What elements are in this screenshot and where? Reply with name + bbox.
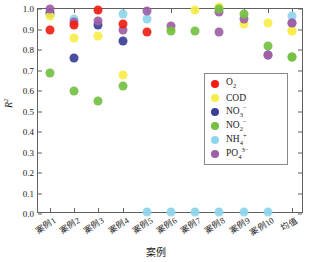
y-axis-tick-label: 0.9 xyxy=(23,25,34,34)
data-point xyxy=(46,5,55,14)
y-axis-tick-mark xyxy=(298,193,302,194)
x-axis-tick-label: 均值 xyxy=(280,216,300,233)
y-axis-tick-label: 1.0 xyxy=(23,5,34,14)
data-point xyxy=(94,6,103,15)
legend-no2[interactable]: NO2− xyxy=(211,119,283,133)
data-point xyxy=(118,36,127,45)
y-axis-tick-mark xyxy=(298,70,302,71)
data-point xyxy=(94,17,103,26)
y-axis-tick-label: 0.7 xyxy=(23,66,34,75)
y-axis-tick-mark xyxy=(38,70,42,71)
data-point xyxy=(94,97,103,106)
y-axis-tick-label: 0.4 xyxy=(23,128,34,137)
x-axis-label: 案例 xyxy=(0,244,311,259)
scatter-chart-figure: R2 0.00.10.20.30.40.50.60.70.80.91.0 O2C… xyxy=(0,0,311,262)
y-axis-tick-mark xyxy=(38,132,42,133)
x-axis-tick-mark xyxy=(171,9,172,13)
y-axis-label-text: R xyxy=(3,102,14,108)
legend-swatch-icon xyxy=(211,94,219,102)
data-point xyxy=(142,15,151,24)
data-point xyxy=(191,6,200,15)
y-axis-tick-mark xyxy=(38,91,42,92)
y-axis-tick-label: 0.6 xyxy=(23,87,34,96)
y-axis-tick-mark xyxy=(38,152,42,153)
plot-area: 0.00.10.20.30.40.50.60.70.80.91.0 O2CODN… xyxy=(37,8,303,213)
legend-o2[interactable]: O2 xyxy=(211,77,283,91)
data-point xyxy=(94,31,103,40)
y-axis-tick-label: 0.3 xyxy=(23,148,34,157)
x-axis-tick-label: 案例10 xyxy=(248,216,275,238)
chart-legend: O2CODNO3−NO2−NH4+PO43− xyxy=(204,73,288,165)
x-axis-tick-label: 案例7 xyxy=(179,216,203,235)
y-axis-tick-mark xyxy=(298,9,302,10)
legend-swatch-icon xyxy=(211,80,219,88)
legend-label: PO43− xyxy=(226,145,248,162)
legend-label: O2 xyxy=(226,77,236,91)
y-axis-tick-mark xyxy=(298,132,302,133)
data-point xyxy=(215,5,224,14)
y-axis-label-exponent: 2 xyxy=(2,98,10,102)
y-axis-tick-label: 0.2 xyxy=(23,169,34,178)
data-point xyxy=(191,26,200,35)
data-point xyxy=(70,33,79,42)
x-axis-tick-mark xyxy=(74,208,75,212)
y-axis-tick-mark xyxy=(38,9,42,10)
y-axis-tick-mark xyxy=(38,29,42,30)
data-point xyxy=(287,19,296,28)
x-axis-tick-label: 案例2 xyxy=(58,216,82,235)
y-axis-tick-mark xyxy=(298,152,302,153)
y-axis-tick-mark xyxy=(298,214,302,215)
data-point xyxy=(118,20,127,29)
x-axis-tick-label: 案例9 xyxy=(228,216,252,235)
legend-no3[interactable]: NO3− xyxy=(211,105,283,119)
data-point xyxy=(239,10,248,19)
legend-cod[interactable]: COD xyxy=(211,91,283,105)
data-point xyxy=(142,27,151,36)
x-axis-tick-label: 案例6 xyxy=(155,216,179,235)
x-axis-tick-label: 案例3 xyxy=(83,216,107,235)
y-axis-tick-mark xyxy=(38,193,42,194)
data-point xyxy=(46,25,55,34)
x-axis-tick-mark xyxy=(292,208,293,212)
legend-swatch-icon xyxy=(211,136,219,144)
y-axis-tick-mark xyxy=(298,173,302,174)
legend-swatch-icon xyxy=(211,122,219,130)
data-point xyxy=(287,53,296,62)
x-axis-tick-mark xyxy=(268,9,269,13)
data-point xyxy=(215,27,224,36)
y-axis-label: R2 xyxy=(2,98,14,108)
data-point xyxy=(70,87,79,96)
x-axis-tick-label: 案例8 xyxy=(203,216,227,235)
legend-swatch-icon xyxy=(211,108,219,116)
data-point xyxy=(263,19,272,28)
y-axis-tick-mark xyxy=(298,111,302,112)
y-axis-tick-label: 0.1 xyxy=(23,189,34,198)
legend-po4[interactable]: PO43− xyxy=(211,147,283,161)
y-axis-tick-mark xyxy=(298,50,302,51)
x-axis-tick-mark xyxy=(98,208,99,212)
x-axis-tick-label: 案例4 xyxy=(107,216,131,235)
y-axis-tick-mark xyxy=(298,91,302,92)
data-point xyxy=(167,26,176,35)
y-axis-tick-label: 0.5 xyxy=(23,107,34,116)
y-axis-tick-mark xyxy=(38,214,42,215)
x-axis-tick-mark xyxy=(123,208,124,212)
data-point xyxy=(70,54,79,63)
x-axis-tick-label: 案例5 xyxy=(131,216,155,235)
data-point xyxy=(118,10,127,19)
data-point xyxy=(142,7,151,16)
y-axis-tick-mark xyxy=(38,50,42,51)
data-point xyxy=(118,70,127,79)
x-axis-tick-label: 案例1 xyxy=(34,216,58,235)
y-axis-tick-label: 0.0 xyxy=(23,210,34,219)
legend-swatch-icon xyxy=(211,150,219,158)
data-point xyxy=(46,68,55,77)
data-point xyxy=(263,51,272,60)
data-point xyxy=(118,81,127,90)
legend-label: COD xyxy=(226,93,246,103)
y-axis-tick-mark xyxy=(38,111,42,112)
x-axis-tick-mark xyxy=(74,9,75,13)
data-point xyxy=(70,21,79,30)
data-point xyxy=(263,41,272,50)
x-axis-tick-mark xyxy=(50,208,51,212)
